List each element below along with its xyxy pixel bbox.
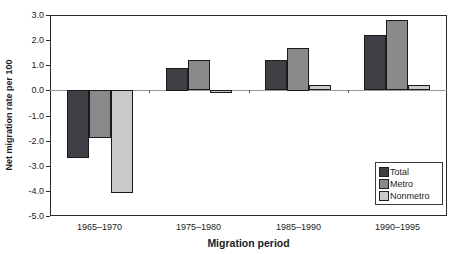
y-axis-tick <box>46 65 50 66</box>
y-axis-tick <box>46 116 50 117</box>
x-axis-tick <box>149 90 150 93</box>
bar-total-1975–1980 <box>166 68 188 91</box>
x-axis-category-label: 1975–1980 <box>149 222 248 232</box>
x-axis-tick <box>348 90 349 93</box>
y-axis-tick <box>46 166 50 167</box>
x-axis-tick <box>249 90 250 93</box>
y-axis-tick-label: -3.0 <box>0 161 44 171</box>
y-axis-tick-label: -2.0 <box>0 136 44 146</box>
legend-swatch-metro-icon <box>379 179 389 189</box>
y-axis-tick-label: -4.0 <box>0 186 44 196</box>
legend-swatch-nonmetro-icon <box>379 191 389 201</box>
legend-item-nonmetro: Nonmetro <box>379 190 439 201</box>
bar-metro-1985–1990 <box>287 48 309 91</box>
y-axis-tick-label: -5.0 <box>0 211 44 221</box>
bar-nonmetro-1985–1990 <box>309 85 331 90</box>
legend-label-metro: Metro <box>390 179 413 189</box>
bar-nonmetro-1975–1980 <box>210 90 232 93</box>
legend: Total Metro Nonmetro <box>375 162 443 205</box>
y-axis-tick <box>46 90 50 91</box>
y-axis-tick <box>46 141 50 142</box>
bar-total-1985–1990 <box>265 60 287 90</box>
legend-label-total: Total <box>390 167 409 177</box>
legend-swatch-total-icon <box>379 167 389 177</box>
bar-metro-1990–1995 <box>386 20 408 90</box>
y-axis-tick-label: -1.0 <box>0 111 44 121</box>
y-axis-tick-label: 0.0 <box>0 85 44 95</box>
bar-metro-1975–1980 <box>188 60 210 90</box>
y-axis-tick <box>46 191 50 192</box>
bar-nonmetro-1990–1995 <box>408 85 430 90</box>
y-axis-tick-label: 1.0 <box>0 60 44 70</box>
x-axis-category-label: 1965–1970 <box>50 222 149 232</box>
bar-total-1965–1970 <box>67 90 89 158</box>
x-axis-category-label: 1985–1990 <box>249 222 348 232</box>
y-axis-tick-label: 3.0 <box>0 10 44 20</box>
legend-item-metro: Metro <box>379 178 439 189</box>
bar-metro-1965–1970 <box>89 90 111 138</box>
y-axis-tick-label: 2.0 <box>0 35 44 45</box>
y-axis-tick <box>46 216 50 217</box>
x-axis-category-label: 1990–1995 <box>348 222 447 232</box>
legend-item-total: Total <box>379 166 439 177</box>
bar-nonmetro-1965–1970 <box>111 90 133 193</box>
bar-total-1990–1995 <box>364 35 386 90</box>
legend-label-nonmetro: Nonmetro <box>390 191 430 201</box>
y-axis-tick <box>46 40 50 41</box>
y-axis-tick <box>46 15 50 16</box>
migration-bar-chart: Net migration rate per 100 Migration per… <box>0 0 456 254</box>
x-axis-title: Migration period <box>50 237 447 249</box>
